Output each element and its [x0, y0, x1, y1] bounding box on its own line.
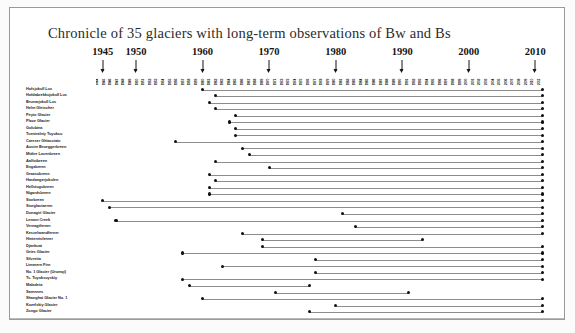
record-end-marker — [541, 127, 544, 130]
record-period-bar — [242, 234, 542, 235]
record-end-marker — [541, 160, 544, 163]
record-end-marker — [541, 265, 544, 268]
record-period-bar — [216, 96, 542, 97]
record-period-bar — [242, 148, 542, 149]
record-end-marker — [541, 147, 544, 150]
glacier-name-label: Engabreen — [26, 164, 46, 171]
record-period-bar — [356, 227, 542, 228]
frame-bottom-rule — [10, 318, 564, 319]
glacier-name-label: Helm Gletscher — [26, 105, 54, 112]
record-period-bar — [183, 253, 542, 254]
glacier-row: Dunagiri Glacier — [0, 211, 575, 218]
glacier-name-label: Austre Broeggerbreen — [26, 144, 66, 151]
record-period-bar — [209, 194, 542, 195]
glacier-row: Zongo Glacier — [0, 309, 575, 316]
record-end-marker — [407, 291, 410, 294]
record-start-marker — [108, 206, 111, 209]
glacier-row: Ts. Tuyuksuyskiy — [0, 276, 575, 283]
record-start-marker — [208, 173, 211, 176]
glacier-name-label: Hofsjokull Lus — [26, 86, 52, 93]
record-start-marker — [221, 265, 224, 268]
record-period-bar — [262, 240, 422, 241]
glacier-name-label: Aalfotbreen — [26, 158, 47, 165]
glacier-name-label: Hofdabrekkujokull Lus — [26, 92, 67, 99]
glacier-name-label: Vernagtferner — [26, 223, 51, 230]
record-period-bar — [262, 247, 542, 248]
record-end-marker — [541, 212, 544, 215]
glacier-row: Peyto Glacier — [0, 113, 575, 120]
record-start-marker — [201, 88, 204, 91]
record-end-marker — [541, 245, 544, 248]
record-period-bar — [203, 90, 542, 91]
record-period-bar — [236, 135, 542, 136]
record-period-bar — [216, 162, 542, 163]
record-period-bar — [316, 260, 542, 261]
record-period-bar — [236, 129, 542, 130]
record-end-marker — [308, 284, 311, 287]
record-period-bar — [336, 306, 542, 307]
record-period-bar — [176, 142, 542, 143]
glacier-name-label: Ts. Tuyuksuyskiy — [26, 275, 57, 282]
record-period-bar — [183, 279, 542, 280]
glacier-name-label: Lemon Creek — [26, 217, 50, 224]
glacier-name-label: Hellstugubreen — [26, 184, 54, 191]
record-period-bar — [236, 116, 542, 117]
glacier-name-label: Nigardsbreen — [26, 190, 50, 197]
record-start-marker — [208, 186, 211, 189]
record-end-marker — [541, 134, 544, 137]
record-start-marker — [114, 219, 117, 222]
glacier-name-label: Midtre Lovenbreen — [26, 151, 60, 158]
glacier-name-label: Kozelskiy Glacier — [26, 302, 57, 309]
record-period-bar — [209, 175, 542, 176]
glacier-name-label: Silvretta — [26, 256, 41, 263]
record-start-marker — [248, 153, 251, 156]
record-start-marker — [261, 245, 264, 248]
glacier-name-label: Place Glacier — [26, 118, 50, 125]
record-period-bar — [269, 168, 542, 169]
record-end-marker — [541, 153, 544, 156]
record-start-marker — [228, 120, 231, 123]
glacier-name-label: Hardangerjokulen — [26, 177, 58, 184]
glacier-name-label: Careser Ghiacciaio — [26, 138, 60, 145]
glacier-name-label: Storbreen — [26, 197, 44, 204]
record-end-marker — [541, 88, 544, 91]
record-period-bar — [249, 155, 542, 156]
record-end-marker — [541, 219, 544, 222]
glacier-name-label: Brunarjokull Lus — [26, 99, 56, 106]
glacier-name-label: Kesselwandferner — [26, 230, 59, 237]
glacier-row: Djankuat — [0, 244, 575, 251]
record-end-marker — [541, 258, 544, 261]
glacier-name-label: Zongo Glacier — [26, 308, 52, 315]
glacier-name-label: Storglaciaeren — [26, 203, 52, 210]
record-start-marker — [208, 192, 211, 195]
glacier-name-label: Djankuat — [26, 243, 42, 250]
record-end-marker — [541, 173, 544, 176]
record-period-bar — [222, 266, 542, 267]
record-period-bar — [189, 286, 309, 287]
record-start-marker — [181, 278, 184, 281]
record-period-bar — [116, 221, 542, 222]
record-end-marker — [541, 206, 544, 209]
glacier-row: Austre Broeggerbreen — [0, 145, 575, 152]
glacier-name-label: Limmern Firn — [26, 262, 50, 269]
record-start-marker — [208, 101, 211, 104]
glacier-name-label: Graasubreen — [26, 171, 49, 178]
record-period-bar — [276, 293, 409, 294]
record-period-bar — [316, 273, 542, 274]
scanned-page: Chronicle of 35 glaciers with long-term … — [0, 0, 575, 333]
record-start-marker — [181, 251, 184, 254]
record-end-marker — [541, 120, 544, 123]
record-period-bar — [309, 312, 542, 313]
record-period-bar — [342, 214, 542, 215]
glacier-rows: Hofsjokull LusHofdabrekkujokull LusBruna… — [0, 0, 575, 333]
record-period-bar — [209, 188, 542, 189]
record-end-marker — [541, 251, 544, 254]
record-end-marker — [541, 199, 544, 202]
record-period-bar — [209, 103, 542, 104]
record-end-marker — [541, 278, 544, 281]
record-end-marker — [541, 140, 544, 143]
record-start-marker — [241, 232, 244, 235]
record-end-marker — [541, 225, 544, 228]
record-end-marker — [541, 304, 544, 307]
record-end-marker — [541, 101, 544, 104]
